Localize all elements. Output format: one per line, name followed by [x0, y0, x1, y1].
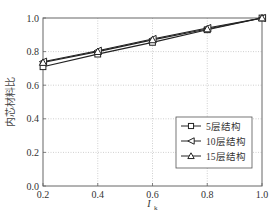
legend-label: 10层结构 — [206, 136, 246, 147]
y-axis-label: 内芯材料比 — [4, 77, 16, 127]
legend: 5层结构10层结构15层结构 — [176, 117, 252, 168]
x-axis-label: I k — [146, 198, 158, 212]
x-axis-label-subscript: k — [154, 204, 158, 212]
x-tick-label: 0.8 — [201, 189, 214, 200]
series-markers — [39, 14, 265, 65]
line-chart: 0.00.20.40.60.81.0 0.20.40.60.81.0 内芯材料比… — [0, 0, 279, 223]
x-tick-label: 0.4 — [92, 189, 105, 200]
x-axis-label-main: I — [146, 198, 151, 209]
y-tick-label: 1.0 — [27, 13, 40, 24]
y-tick-label: 0.8 — [27, 46, 40, 57]
x-tick-label: 1.0 — [256, 189, 269, 200]
legend-label: 15层结构 — [206, 151, 246, 162]
x-tick-label: 0.2 — [37, 189, 50, 200]
y-tick-label: 0.2 — [27, 147, 40, 158]
square-marker-icon — [188, 123, 193, 128]
y-tick-label: 0.6 — [27, 80, 40, 91]
legend-label: 5层结构 — [206, 121, 241, 132]
y-tick-label: 0.4 — [27, 113, 40, 124]
